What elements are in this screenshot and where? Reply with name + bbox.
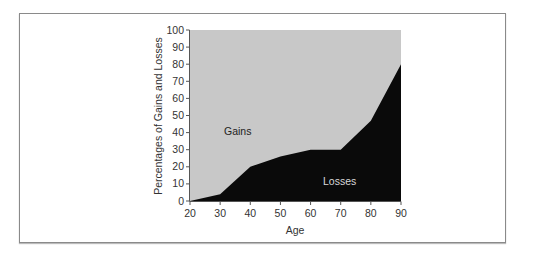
- x-tick-label: 40: [244, 207, 256, 219]
- x-ticks: 2030405060708090: [184, 202, 407, 220]
- x-tick-label: 70: [335, 207, 347, 219]
- area-chart: 0102030405060708090100 2030405060708090 …: [0, 0, 559, 259]
- x-tick-label: 30: [214, 207, 226, 219]
- y-tick-label: 10: [172, 177, 184, 189]
- losses-label: Losses: [323, 175, 356, 187]
- y-tick-label: 100: [166, 24, 184, 36]
- x-tick-label: 20: [184, 207, 196, 219]
- y-tick-label: 40: [172, 126, 184, 138]
- x-axis-title: Age: [286, 224, 305, 236]
- y-ticks: 0102030405060708090100: [166, 24, 189, 207]
- gains-label: Gains: [224, 125, 251, 137]
- x-tick-label: 90: [395, 207, 407, 219]
- x-tick-label: 60: [305, 207, 317, 219]
- y-tick-label: 60: [172, 92, 184, 104]
- x-tick-label: 80: [365, 207, 377, 219]
- y-tick-label: 90: [172, 41, 184, 53]
- y-tick-label: 0: [178, 195, 184, 207]
- y-tick-label: 80: [172, 58, 184, 70]
- y-tick-label: 20: [172, 160, 184, 172]
- y-axis-title: Percentages of Gains and Losses: [152, 37, 164, 195]
- y-tick-label: 70: [172, 75, 184, 87]
- y-tick-label: 30: [172, 143, 184, 155]
- x-tick-label: 50: [275, 207, 287, 219]
- y-tick-label: 50: [172, 109, 184, 121]
